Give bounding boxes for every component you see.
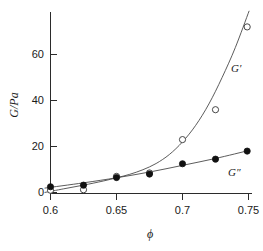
y-tick-label-40: 40 bbox=[32, 94, 44, 106]
data-points-g-prime bbox=[47, 24, 250, 193]
data-point bbox=[113, 174, 119, 180]
data-point bbox=[212, 156, 218, 162]
series-label-g-prime: G′ bbox=[231, 62, 242, 74]
data-point bbox=[179, 161, 185, 167]
data-point bbox=[244, 148, 250, 154]
data-point bbox=[244, 24, 250, 30]
y-tick-label-20: 20 bbox=[32, 140, 44, 152]
data-point bbox=[47, 184, 53, 190]
data-point bbox=[80, 182, 86, 188]
series-label-g-double-prime: G″ bbox=[228, 166, 241, 178]
data-point bbox=[212, 107, 218, 113]
x-tick-label-065: 0.65 bbox=[106, 204, 127, 216]
data-point bbox=[146, 171, 152, 177]
x-tick-marks bbox=[51, 194, 249, 200]
fit-curve-g-prime bbox=[45, 11, 250, 193]
fit-curve-g-double-prime bbox=[45, 150, 250, 188]
x-tick-label-075: 0.75 bbox=[238, 204, 259, 216]
y-axis-title: G/Pa bbox=[7, 92, 21, 117]
data-point bbox=[179, 137, 185, 143]
x-tick-label-070: 0.7 bbox=[175, 204, 190, 216]
y-tick-label-0: 0 bbox=[38, 186, 44, 198]
y-tick-marks bbox=[51, 55, 57, 193]
y-tick-label-60: 60 bbox=[32, 48, 44, 60]
scatter-plot: 0 20 40 60 0.6 0.65 0.7 0.75 G/Pa ϕ G′ G… bbox=[0, 0, 263, 251]
x-axis-title: ϕ bbox=[147, 227, 153, 241]
chart-figure: 0 20 40 60 0.6 0.65 0.7 0.75 G/Pa ϕ G′ G… bbox=[0, 0, 263, 251]
x-tick-label-060: 0.6 bbox=[43, 204, 58, 216]
